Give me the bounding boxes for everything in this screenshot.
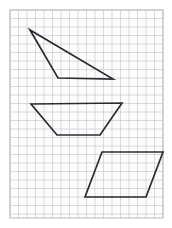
figure-root <box>0 0 172 228</box>
grid-shapes-figure <box>0 0 172 228</box>
